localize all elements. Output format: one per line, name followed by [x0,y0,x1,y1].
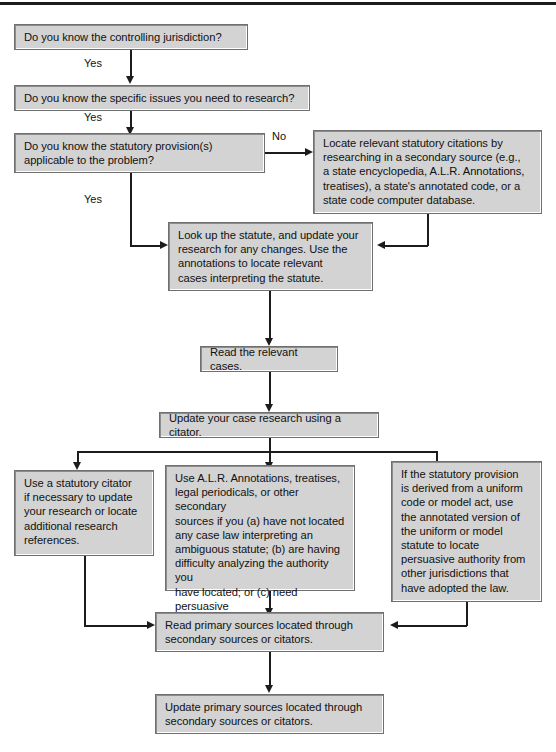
edge-readprimary-updateprimary-line [269,652,271,687]
node-question-jurisdiction: Do you know the controlling jurisdiction… [14,24,248,50]
node-label: Use a statutory citator if necessary to … [24,476,145,547]
edge-readprimary-updateprimary-arrowhead [265,685,273,693]
edge-q1-q2-line [130,50,132,78]
node-label: Read the relevant cases. [210,345,329,373]
page-top-rule [0,2,556,5]
edge-locate-lookup-hline [385,245,428,247]
node-update-case-research: Update your case research using a citato… [159,412,379,438]
edge-readcases-update-line [269,372,271,406]
edge-q3-locate-line [265,152,306,154]
node-statutory-citator: Use a statutory citator if necessary to … [14,470,154,556]
edge-q3-lookup-hline [130,245,163,247]
edge-q3-lookup-vline [130,173,132,246]
edge-label-yes-3: Yes [84,193,102,205]
edge-q3-lookup-arrowhead [160,241,168,249]
node-label: Read primary sources located through sec… [165,618,375,646]
node-question-issues: Do you know the specific issues you need… [14,85,310,111]
node-label: Use A.L.R. Annotations, treatises, legal… [175,471,346,627]
node-label: Update your case research using a citato… [169,411,370,439]
node-label: Look up the statute, and update your res… [178,228,364,285]
node-update-primary-sources: Update primary sources located through s… [155,694,384,734]
edge-locate-lookup-arrowhead [377,241,385,249]
edge-q3-locate-arrowhead [305,148,313,156]
edge-distributor-left-arrowhead [73,462,81,470]
node-label: Do you know the statutory provision(s) a… [24,139,256,167]
edge-locate-lookup-vline [427,214,429,246]
node-locate-statutory-citations: Locate relevant statutory citations by r… [313,130,542,214]
flowchart-canvas: Do you know the controlling jurisdiction… [0,0,556,752]
node-label: Update primary sources located through s… [165,700,375,728]
edge-left-readprimary-vline [84,556,86,626]
edge-update-distributor-stem [269,438,271,452]
edge-label-no-1: No [272,130,286,142]
node-label: Do you know the controlling jurisdiction… [24,30,222,44]
edge-label-yes-1: Yes [84,57,102,69]
edge-right-readprimary-arrowhead [390,621,398,629]
edge-left-readprimary-arrowhead [147,621,155,629]
edge-right-readprimary-vline [466,602,468,626]
node-label: Locate relevant statutory citations by r… [323,136,533,207]
node-uniform-code-model-act: If the statutory provision is derived fr… [391,461,542,602]
node-read-primary-sources: Read primary sources located through sec… [155,612,384,652]
node-read-relevant-cases: Read the relevant cases. [200,346,338,372]
node-label: If the statutory provision is derived fr… [401,467,533,595]
node-look-up-statute: Look up the statute, and update your res… [168,222,373,291]
node-alr-annotations-secondary: Use A.L.R. Annotations, treatises, legal… [165,465,355,591]
node-label: Do you know the specific issues you need… [24,91,294,105]
edge-right-readprimary-hline [398,625,467,627]
edge-update-distributor-bar [77,451,437,453]
edge-label-yes-2: Yes [84,111,102,123]
node-question-statutory-provision: Do you know the statutory provision(s) a… [14,133,265,173]
edge-left-readprimary-hline [84,625,150,627]
edge-lookup-readcases-line [269,291,271,340]
edge-q1-q2-arrowhead [126,76,134,84]
